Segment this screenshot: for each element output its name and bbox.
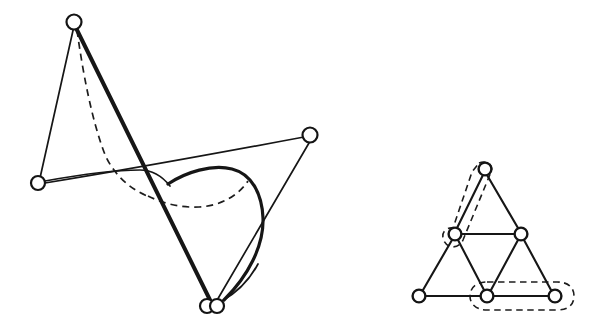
node-bottom-right (549, 290, 562, 303)
left-panel-dashed-curves (77, 30, 248, 207)
edge-midleft-bottomleft (423, 240, 452, 290)
left-panel-nodes (31, 15, 318, 314)
left-panel-edges (40, 26, 309, 302)
node-mid-right (515, 228, 528, 241)
right-panel-highlights (443, 162, 574, 310)
edge-apex-midleft (457, 175, 483, 228)
edge-top-left (40, 26, 74, 178)
curve-loop-main (168, 167, 263, 300)
figure-svg (0, 0, 600, 331)
node-top (67, 15, 82, 30)
left-panel (31, 15, 318, 314)
node-bottom-twin (210, 299, 224, 313)
edge-left-right (45, 137, 304, 183)
right-panel (413, 162, 574, 310)
node-left (31, 176, 45, 190)
edge-top-bottom-bold (76, 28, 210, 300)
node-bottom-mid (481, 290, 494, 303)
node-mid-left (449, 228, 462, 241)
node-bottom-left (413, 290, 426, 303)
edge-apex-midright (487, 175, 518, 228)
figure-canvas (0, 0, 600, 331)
edge-midleft-bottommid (458, 240, 484, 290)
node-right (303, 128, 318, 143)
node-apex (479, 163, 492, 176)
